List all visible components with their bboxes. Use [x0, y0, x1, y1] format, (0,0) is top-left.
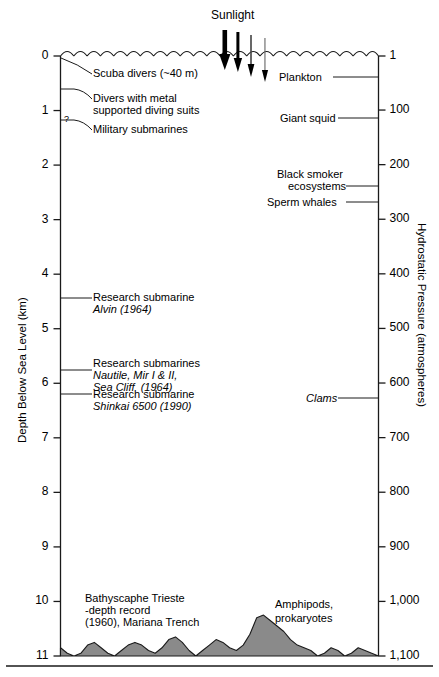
annotation-sperm-whales: Sperm whales: [267, 196, 337, 209]
sunlight-label: Sunlight: [211, 8, 254, 22]
right-leader-lines: [333, 77, 378, 398]
left-tick-label-3: 3: [42, 212, 49, 226]
diagram-canvas: [0, 0, 439, 677]
annotation-divers-line1: Divers with metal: [93, 92, 177, 105]
left-leader-lines: [61, 58, 92, 394]
right-tick-label-400: 400: [390, 266, 410, 280]
sunlight-arrow-3: [248, 35, 255, 77]
right-tick-label-300: 300: [390, 211, 410, 225]
annotation-trieste-line2: -depth record: [85, 604, 150, 617]
left-depth-axis: [54, 56, 61, 656]
sunlight-arrow-1: [219, 30, 230, 70]
sunlight-arrow-4: [262, 38, 268, 82]
annotation-giant-squid: Giant squid: [280, 112, 336, 125]
annotation-divers-line2: supported diving suits: [93, 104, 199, 117]
seafloor-notch-left: [78, 630, 90, 644]
left-tick-label-9: 9: [42, 539, 49, 553]
annotation-black-smoker-line2: ecosystems: [288, 180, 346, 193]
annotation-black-smoker-line1: Black smoker: [277, 168, 343, 181]
right-tick-label-800: 800: [390, 484, 410, 498]
right-tick-label-700: 700: [390, 430, 410, 444]
annotation-nautile-line2: Nautile, Mir I & II,: [93, 369, 177, 382]
ocean-depth-diagram: Sunlight Depth Below Sea Level (km) Hydr…: [0, 0, 439, 677]
annotation-trieste-line1: Bathyscaphe Trieste: [85, 592, 185, 605]
right-tick-label-500: 500: [390, 320, 410, 334]
leader-divers: [61, 89, 92, 99]
right-tick-label-100: 100: [390, 102, 410, 116]
left-tick-label-4: 4: [42, 266, 49, 280]
uncertainty-marker: ?: [64, 114, 69, 124]
right-tick-label-1,000: 1,000: [390, 593, 420, 607]
left-tick-label-2: 2: [42, 157, 49, 171]
annotation-shinkai-line1: Research submarine: [93, 388, 195, 401]
right-pressure-axis: [379, 56, 386, 656]
sea-surface-waves: [61, 52, 379, 57]
right-tick-label-1: 1: [390, 48, 397, 62]
left-tick-label-1: 1: [42, 103, 49, 117]
annotation-amphipods-line1: Amphipods,: [275, 598, 333, 611]
annotation-nautile-line1: Research submarines: [93, 357, 200, 370]
left-tick-label-8: 8: [42, 484, 49, 498]
sunlight-arrows: [219, 30, 268, 82]
right-tick-label-900: 900: [390, 539, 410, 553]
right-axis-title: Hydrostatic Pressure (atmospheres): [416, 223, 428, 407]
annotation-trieste-prefix: Bathyscaphe: [85, 592, 151, 604]
left-tick-label-10: 10: [35, 593, 48, 607]
annotation-trieste-vessel: Trieste: [151, 592, 184, 604]
right-tick-label-200: 200: [390, 157, 410, 171]
left-tick-label-7: 7: [42, 430, 49, 444]
annotation-scuba-divers: Scuba divers (~40 m): [93, 67, 198, 80]
left-tick-label-5: 5: [42, 321, 49, 335]
annotation-shinkai-line2: Shinkai 6500 (1990): [93, 400, 191, 413]
left-tick-label-6: 6: [42, 375, 49, 389]
left-tick-label-0: 0: [42, 48, 49, 62]
annotation-alvin-line1: Research submarine: [93, 291, 195, 304]
annotation-amphipods-line2: prokaryotes: [275, 612, 332, 625]
left-tick-label-11: 11: [36, 648, 48, 662]
leader-scuba: [61, 58, 92, 74]
annotation-trieste-line3: (1960), Mariana Trench: [85, 616, 199, 629]
right-tick-label-600: 600: [390, 375, 410, 389]
annotation-alvin-line2: Alvin (1964): [93, 303, 152, 316]
annotation-military-submarines: Military submarines: [93, 123, 188, 136]
right-tick-label-1,100: 1,100: [390, 648, 420, 662]
annotation-clams: Clams: [306, 392, 337, 405]
left-axis-title: Depth Below Sea Level (km): [16, 297, 28, 443]
annotation-plankton: Plankton: [279, 71, 322, 84]
seafloor-notch-right: [340, 628, 352, 640]
